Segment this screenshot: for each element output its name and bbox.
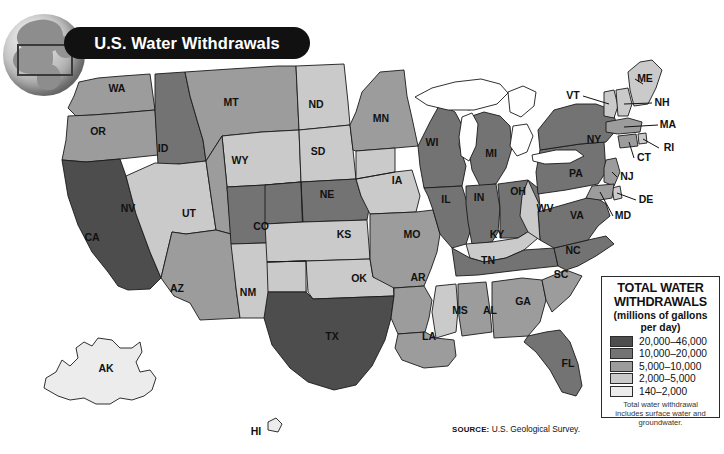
state-ks [265,220,370,262]
legend-swatch [610,348,633,359]
state-label-wy: WY [232,154,249,166]
state-label-me: ME [637,72,653,84]
state-label-nh: NH [654,96,669,108]
state-label-wv: WV [537,202,554,214]
state-ri [638,133,647,144]
state-label-va: VA [570,209,584,221]
state-label-wi: WI [426,136,439,148]
legend-class-list: 20,000–46,00010,000–20,0005,000–10,0002,… [608,336,713,397]
state-label-ak: AK [98,362,114,374]
state-label-ri: RI [664,141,675,153]
state-label-ia: IA [392,174,403,186]
legend-row: 2,000–5,000 [610,373,713,384]
state-label-oh: OH [510,185,526,197]
state-label-nm: NM [240,286,257,298]
state-label-ar: AR [410,271,426,283]
legend-row: 10,000–20,000 [610,348,713,359]
legend-swatch [610,373,633,384]
state-label-md: MD [615,209,632,221]
state-label-pa: PA [569,167,583,179]
state-label-nd: ND [308,98,324,110]
legend-label: 140–2,000 [639,386,687,397]
state-ga [492,278,546,338]
state-label-al: AL [483,304,498,316]
state-sd [299,125,356,182]
state-label-ok: OK [351,272,367,284]
state-label-ca: CA [84,231,100,243]
state-label-mi: MI [485,147,497,159]
state-label-id: ID [158,142,169,154]
legend-subtitle: (millions of gallons per day) [608,310,713,333]
state-nh [616,88,632,116]
state-label-tn: TN [481,254,495,266]
state-label-ut: UT [182,207,197,219]
legend-label: 5,000–10,000 [639,361,701,372]
state-label-ne: NE [320,188,335,200]
legend-title: TOTAL WATER WITHDRAWALS [608,282,713,309]
state-label-in: IN [474,191,485,203]
state-hi [268,418,282,432]
legend-note: Total water withdrawal includes surface … [608,400,713,428]
state-label-az: AZ [170,282,185,294]
map-figure: WAORCAIDNVMTWYUTAZCONMNDSDNEKSOKTXMNIAMO… [0,0,724,454]
source-prefix: SOURCE: [452,425,489,434]
state-label-tx: TX [325,330,338,342]
state-az [161,230,240,320]
state-ar [391,286,432,334]
legend-swatch [610,336,633,347]
state-label-de: DE [639,193,654,205]
legend-row: 5,000–10,000 [610,361,713,372]
legend-label: 20,000–46,000 [639,336,707,347]
state-label-nc: NC [565,244,581,256]
state-ct [618,134,638,148]
state-label-ct: CT [637,151,652,163]
state-label-nv: NV [121,202,136,214]
legend-swatch [610,361,633,372]
state-label-wa: WA [109,82,126,94]
state-label-ky: KY [490,228,505,240]
legend-swatch [610,386,633,397]
legend-label: 10,000–20,000 [639,348,707,359]
source-line: SOURCE: U.S. Geological Survey. [452,424,580,434]
state-label-ny: NY [587,133,602,145]
page-title: U.S. Water Withdrawals [94,34,280,53]
legend-title-line1: TOTAL WATER [617,281,703,295]
state-label-mo: MO [404,228,421,240]
state-label-sc: SC [554,268,569,280]
state-label-mn: MN [373,112,389,124]
map-legend: TOTAL WATER WITHDRAWALS (millions of gal… [601,276,720,418]
state-label-ms: MS [452,304,468,316]
state-label-co: CO [253,220,269,232]
state-label-vt: VT [566,89,580,101]
title-banner: U.S. Water Withdrawals [64,27,310,59]
state-label-ks: KS [337,228,352,240]
legend-label: 2,000–5,000 [639,373,696,384]
state-label-sd: SD [311,145,326,157]
state-label-ma: MA [660,118,677,130]
legend-title-line2: WITHDRAWALS [614,295,707,309]
state-label-hi: HI [251,425,262,437]
state-label-mt: MT [223,96,239,108]
state-label-la: LA [422,330,436,342]
state-label-fl: FL [562,357,575,369]
state-mo [370,210,440,288]
state-wa [68,74,155,116]
state-mn [350,70,418,151]
state-label-ga: GA [515,295,531,307]
legend-row: 140–2,000 [610,386,713,397]
legend-row: 20,000–46,000 [610,336,713,347]
state-label-il: IL [441,193,451,205]
state-ia [356,148,420,214]
state-or [62,110,158,162]
state-label-or: OR [90,125,106,137]
source-text: U.S. Geological Survey. [492,424,580,434]
state-label-nj: NJ [620,170,634,182]
